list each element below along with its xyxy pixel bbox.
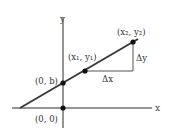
x-axis-label: x — [155, 103, 160, 113]
origin-label: (0, 0) — [35, 114, 58, 124]
slope-diagram: x y (0, 0) (0, b) (x₁, y₁) (x₂, y₂) Δx Δ… — [0, 0, 174, 139]
origin-point — [60, 105, 65, 110]
point-1-label: (x₁, y₁) — [68, 52, 96, 62]
point-1 — [82, 68, 87, 73]
intercept-point — [60, 80, 65, 85]
sloped-line — [20, 39, 138, 108]
point-2 — [130, 39, 135, 44]
intercept-label: (0, b) — [35, 76, 58, 86]
point-2-label: (x₂, y₂) — [117, 27, 145, 37]
delta-x-label: Δx — [102, 74, 113, 84]
delta-y-label: Δy — [136, 53, 147, 63]
y-axis-label: y — [59, 14, 66, 24]
